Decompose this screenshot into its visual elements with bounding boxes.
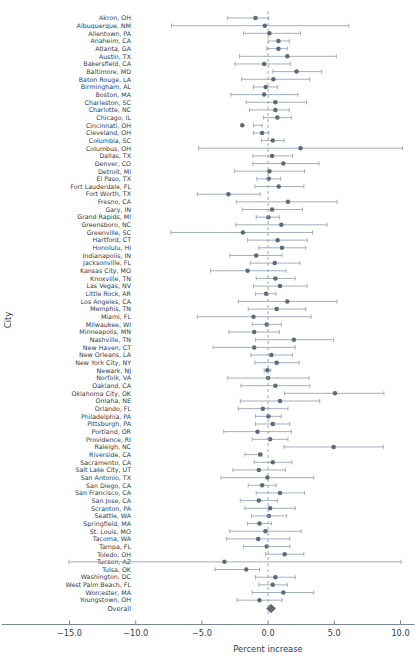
city-label: Oakland, CA bbox=[92, 382, 131, 389]
city-label: Columbus, OH bbox=[86, 145, 131, 152]
city-label: Cleveland, OH bbox=[86, 129, 131, 136]
point-estimate-marker bbox=[257, 498, 262, 503]
city-label: Columbia, SC bbox=[89, 137, 132, 144]
city-label: Bakersfield, CA bbox=[83, 60, 131, 67]
point-estimate-marker bbox=[241, 230, 246, 235]
forest-plot-svg: Akron, OHAlbuquerque, NMAllentown, PAAna… bbox=[0, 0, 416, 660]
point-estimate-marker bbox=[244, 567, 249, 572]
point-estimate-marker bbox=[294, 69, 299, 74]
point-estimate-marker bbox=[260, 483, 265, 488]
overall-row-label: Overall bbox=[107, 605, 131, 613]
point-estimate-marker bbox=[262, 62, 267, 67]
point-estimate-marker bbox=[292, 337, 297, 342]
point-estimate-marker bbox=[273, 276, 278, 281]
city-label: Providence, RI bbox=[86, 436, 131, 443]
x-axis-tick-label: −10.0 bbox=[123, 628, 148, 638]
point-estimate-marker bbox=[265, 475, 270, 480]
city-label: Youngstown, OH bbox=[79, 596, 132, 604]
city-label: Hartford, CT bbox=[93, 236, 132, 243]
point-estimate-marker bbox=[267, 177, 272, 182]
city-label: Denver, CO bbox=[95, 160, 131, 167]
city-label: Little Rock, AR bbox=[85, 290, 131, 297]
point-estimate-marker bbox=[273, 108, 278, 113]
city-label: Riverside, CA bbox=[89, 451, 132, 458]
city-label: Fort Worth, TX bbox=[86, 190, 132, 197]
forest-row bbox=[254, 123, 263, 127]
point-estimate-marker bbox=[255, 429, 260, 434]
point-estimate-marker bbox=[273, 575, 278, 580]
point-estimate-marker bbox=[270, 154, 275, 159]
forest-row bbox=[244, 31, 301, 35]
point-estimate-marker bbox=[279, 223, 284, 228]
point-estimate-marker bbox=[262, 92, 267, 97]
city-label: Miami, FL bbox=[101, 313, 132, 320]
city-label: Orlando, FL bbox=[95, 405, 132, 412]
point-estimate-marker bbox=[272, 261, 277, 266]
forest-row bbox=[171, 24, 348, 28]
y-axis-title: City bbox=[3, 312, 13, 328]
point-estimate-marker bbox=[331, 445, 336, 450]
city-label: Knoxville, TN bbox=[90, 275, 131, 282]
point-estimate-marker bbox=[278, 399, 283, 404]
point-estimate-marker bbox=[269, 353, 274, 358]
point-estimate-marker bbox=[281, 590, 286, 595]
point-estimate-marker bbox=[267, 514, 272, 519]
point-estimate-marker bbox=[260, 131, 265, 136]
point-estimate-marker bbox=[251, 314, 256, 319]
point-estimate-marker bbox=[278, 491, 283, 496]
point-estimate-marker bbox=[252, 345, 257, 350]
x-axis-title: Percent increase bbox=[233, 644, 302, 654]
point-estimate-marker bbox=[273, 100, 278, 105]
point-estimate-marker bbox=[252, 330, 257, 335]
city-label: Sacramento, CA bbox=[80, 459, 131, 466]
city-label: Toledo, OH bbox=[96, 551, 131, 558]
point-estimate-marker bbox=[261, 406, 266, 411]
city-label: San Antonio, TX bbox=[81, 474, 132, 481]
point-estimate-marker bbox=[263, 529, 268, 534]
x-axis-tick-label: 10.0 bbox=[391, 628, 409, 638]
city-label: El Paso, TX bbox=[97, 175, 132, 182]
point-estimate-marker bbox=[258, 452, 263, 457]
city-label: Worcester, MA bbox=[86, 589, 132, 596]
forest-row bbox=[215, 567, 259, 571]
point-estimate-marker bbox=[274, 360, 279, 365]
point-estimate-marker bbox=[226, 192, 231, 197]
point-estimate-marker bbox=[278, 284, 283, 289]
city-label: Omaha, NE bbox=[96, 397, 132, 404]
city-label-group: Akron, OHAlbuquerque, NMAllentown, PAAna… bbox=[66, 14, 132, 604]
city-label: St. Louis, MO bbox=[90, 528, 131, 535]
city-label: Fresno, CA bbox=[98, 198, 132, 205]
x-axis-tick-label: −5.0 bbox=[192, 628, 212, 638]
point-estimate-marker bbox=[222, 560, 227, 565]
point-estimate-marker bbox=[263, 23, 268, 28]
city-label: Boston, MA bbox=[95, 91, 131, 98]
city-label: San Francisco, CA bbox=[75, 489, 132, 496]
city-label: Charleston, SC bbox=[85, 99, 132, 106]
point-estimate-marker bbox=[282, 552, 287, 557]
city-label: Fort Lauderdale, FL bbox=[70, 183, 131, 190]
city-label: New Orleans, LA bbox=[79, 351, 132, 358]
city-label: Anaheim, CA bbox=[90, 37, 131, 44]
city-label: West Palm Beach, FL bbox=[66, 581, 132, 588]
x-axis-tick-label: −15.0 bbox=[57, 628, 82, 638]
point-estimate-marker bbox=[270, 583, 275, 588]
city-label: Tulsa, OK bbox=[101, 566, 132, 573]
city-label: Greenville, SC bbox=[87, 229, 132, 236]
forest-row bbox=[250, 108, 290, 112]
point-estimate-marker bbox=[257, 521, 262, 526]
x-axis-tick-label: 0.0 bbox=[262, 628, 275, 638]
point-estimate-marker bbox=[275, 115, 280, 120]
point-estimate-marker bbox=[276, 46, 281, 51]
point-estimate-marker bbox=[280, 246, 285, 251]
x-axis-tick-label: 5.0 bbox=[328, 628, 341, 638]
forest-row bbox=[242, 77, 310, 81]
point-estimate-marker bbox=[253, 16, 258, 21]
city-label: Charlotte, NC bbox=[89, 106, 132, 113]
point-estimate-marker bbox=[257, 598, 262, 603]
point-estimate-marker bbox=[271, 77, 276, 82]
city-label: Scranton, PA bbox=[91, 505, 132, 512]
forest-row bbox=[253, 161, 319, 165]
point-estimate-marker bbox=[274, 307, 279, 312]
point-estimate-marker bbox=[245, 269, 250, 274]
point-estimate-marker bbox=[276, 39, 281, 44]
